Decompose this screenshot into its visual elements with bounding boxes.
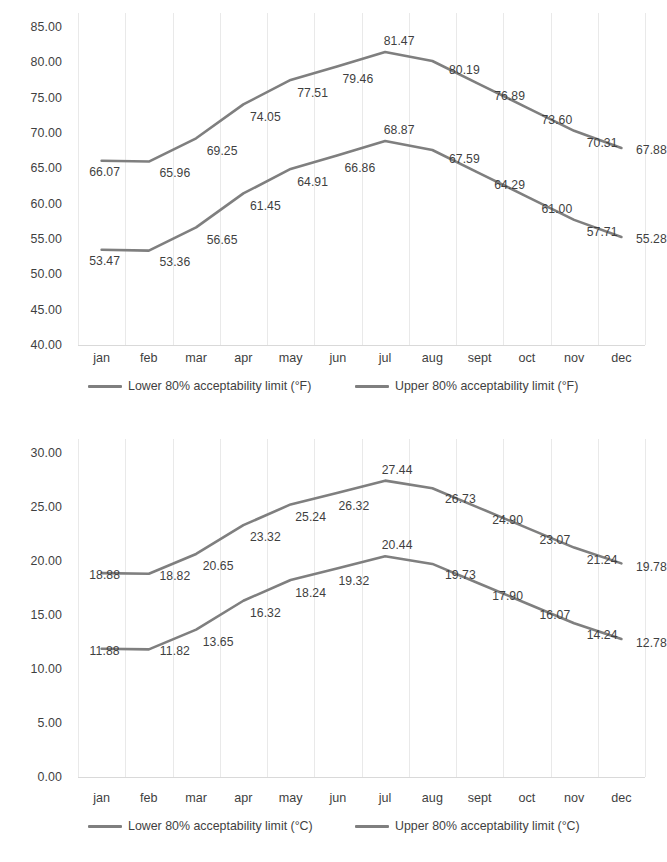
- data-label: 68.87: [384, 123, 415, 137]
- x-axis-tick-label: jan: [93, 791, 110, 805]
- data-label: 19.78: [636, 560, 667, 574]
- data-label: 67.88: [636, 143, 667, 157]
- x-axis-tick-label: jun: [329, 351, 346, 365]
- data-label: 69.25: [207, 144, 238, 158]
- data-label: 18.24: [295, 586, 326, 600]
- data-label: 53.36: [159, 255, 190, 269]
- data-label: 11.82: [160, 644, 190, 658]
- data-label: 53.47: [89, 254, 120, 268]
- data-label: 81.47: [384, 34, 415, 48]
- x-axis-tick-label: jul: [379, 791, 392, 805]
- legend-label: Lower 80% acceptability limit (°C): [128, 819, 313, 833]
- x-axis-tick-label: oct: [518, 351, 535, 365]
- data-label: 18.88: [89, 568, 120, 582]
- legend-item[interactable]: Lower 80% acceptability limit (°C): [88, 819, 313, 833]
- x-axis-tick-label: jun: [329, 791, 346, 805]
- data-label: 73.60: [541, 113, 572, 127]
- x-axis-tick-label: may: [279, 351, 303, 365]
- legend-line-icon: [355, 385, 389, 388]
- data-label: 65.96: [159, 166, 190, 180]
- data-label: 61.45: [250, 199, 281, 213]
- data-label: 76.89: [494, 89, 525, 103]
- data-label: 23.32: [250, 530, 281, 544]
- data-label: 20.65: [203, 559, 234, 573]
- data-label: 64.91: [297, 175, 328, 189]
- data-label: 66.07: [89, 165, 120, 179]
- data-label: 19.32: [338, 574, 369, 588]
- data-label: 26.32: [338, 499, 369, 513]
- x-axis-tick-label: dec: [611, 791, 631, 805]
- x-axis-tick-label: mar: [185, 791, 207, 805]
- data-label: 16.07: [539, 608, 570, 622]
- x-axis-tick-label: apr: [234, 351, 252, 365]
- data-label: 74.05: [250, 110, 281, 124]
- legend-line-icon: [88, 385, 122, 388]
- x-axis-tick-label: feb: [140, 791, 158, 805]
- data-label: 80.19: [449, 63, 480, 77]
- series-line: [102, 481, 622, 574]
- x-axis-tick-label: mar: [185, 351, 207, 365]
- x-axis-fahrenheit: janfebmaraprmayjunjulaugseptoctnovdec: [0, 345, 667, 375]
- legend-item[interactable]: Lower 80% acceptability limit (°F): [88, 379, 311, 393]
- data-label: 23.07: [539, 533, 570, 547]
- data-label: 56.65: [207, 233, 238, 247]
- x-axis-tick-label: apr: [234, 791, 252, 805]
- x-axis-tick-label: feb: [140, 351, 158, 365]
- data-label: 16.32: [250, 606, 281, 620]
- legend-fahrenheit: Lower 80% acceptability limit (°F)Upper …: [0, 375, 667, 405]
- legend-label: Upper 80% acceptability limit (°F): [395, 379, 578, 393]
- data-label: 25.24: [295, 510, 326, 524]
- series-line: [102, 141, 622, 251]
- x-axis-tick-label: nov: [564, 791, 584, 805]
- legend-label: Lower 80% acceptability limit (°F): [128, 379, 311, 393]
- data-label: 20.44: [382, 538, 413, 552]
- legend-item[interactable]: Upper 80% acceptability limit (°F): [355, 379, 578, 393]
- chart-celsius: 0.005.0010.0015.0020.0025.0030.0011.8811…: [0, 425, 667, 862]
- chart-fahrenheit: 40.0045.0050.0055.0060.0065.0070.0075.00…: [0, 0, 667, 425]
- legend-line-icon: [355, 825, 389, 828]
- legend-celsius: Lower 80% acceptability limit (°C)Upper …: [0, 815, 667, 845]
- data-label: 21.24: [587, 553, 618, 567]
- x-axis-tick-label: nov: [564, 351, 584, 365]
- data-label: 79.46: [342, 72, 373, 86]
- data-label: 24.90: [492, 513, 523, 527]
- x-axis-tick-label: aug: [422, 351, 443, 365]
- data-label: 18.82: [159, 569, 190, 583]
- plot-area-celsius: 0.005.0010.0015.0020.0025.0030.0011.8811…: [0, 425, 667, 785]
- data-label: 64.29: [494, 178, 525, 192]
- x-axis-celsius: janfebmaraprmayjunjulaugseptoctnovdec: [0, 785, 667, 815]
- data-label: 55.28: [636, 232, 667, 246]
- legend-label: Upper 80% acceptability limit (°C): [395, 819, 580, 833]
- data-label: 14.24: [587, 628, 618, 642]
- data-label: 12.78: [636, 636, 667, 650]
- data-label: 57.71: [587, 225, 618, 239]
- chart-page: 40.0045.0050.0055.0060.0065.0070.0075.00…: [0, 0, 667, 862]
- x-axis-tick-label: sept: [468, 351, 492, 365]
- data-label: 27.44: [382, 463, 413, 477]
- data-label: 11.88: [90, 644, 120, 658]
- x-axis-tick-label: sept: [468, 791, 492, 805]
- legend-line-icon: [88, 825, 122, 828]
- data-label: 13.65: [203, 635, 234, 649]
- x-axis-tick-label: dec: [611, 351, 631, 365]
- data-label: 19.73: [445, 568, 476, 582]
- series-lines: [0, 425, 667, 785]
- data-label: 70.31: [587, 136, 618, 150]
- legend-item[interactable]: Upper 80% acceptability limit (°C): [355, 819, 580, 833]
- series-line: [102, 52, 622, 162]
- x-axis-tick-label: oct: [518, 791, 535, 805]
- data-label: 26.73: [445, 492, 476, 506]
- data-label: 67.59: [449, 152, 480, 166]
- x-axis-tick-label: may: [279, 791, 303, 805]
- data-label: 66.86: [344, 161, 375, 175]
- data-label: 17.90: [492, 589, 523, 603]
- x-axis-tick-label: jan: [93, 351, 110, 365]
- plot-area-fahrenheit: 40.0045.0050.0055.0060.0065.0070.0075.00…: [0, 0, 667, 345]
- data-label: 61.00: [541, 202, 572, 216]
- data-label: 77.51: [297, 86, 328, 100]
- x-axis-tick-label: jul: [379, 351, 392, 365]
- x-axis-tick-label: aug: [422, 791, 443, 805]
